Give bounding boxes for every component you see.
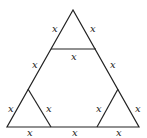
label-x: x xyxy=(116,128,122,138)
label-x: x xyxy=(135,104,141,114)
label-x: x xyxy=(72,128,78,138)
label-x: x xyxy=(46,104,52,114)
triangle-figure xyxy=(0,0,147,138)
label-x: x xyxy=(90,24,96,34)
label-x: x xyxy=(32,60,38,70)
label-x: x xyxy=(71,52,77,62)
label-x: x xyxy=(96,104,102,114)
outer-triangle xyxy=(7,10,139,127)
triangle-diagram: x x x x x x x x x x x x xyxy=(0,0,147,138)
label-x: x xyxy=(27,128,33,138)
label-x: x xyxy=(110,60,116,70)
label-x: x xyxy=(8,104,14,114)
label-x: x xyxy=(52,24,58,34)
